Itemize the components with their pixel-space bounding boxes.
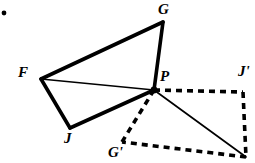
stray-dot [2, 11, 7, 16]
point-marker-P [151, 87, 158, 94]
segment-P-Jprime [154, 90, 243, 92]
geometry-figure: F G J P G' J' [0, 0, 255, 163]
vertex-label-G: G [158, 2, 169, 17]
stray-dot-layer [2, 11, 7, 16]
vertex-label-F: F [18, 65, 28, 80]
vertex-label-P: P [160, 69, 169, 84]
vertex-label-j-prime: J' [238, 64, 250, 79]
segment-F-J [41, 79, 70, 128]
vertex-label-J: J [64, 131, 72, 146]
figure-canvas [0, 0, 255, 163]
segment-F-G [41, 22, 163, 79]
markers-layer [151, 87, 158, 94]
segment-Jprime-Fprime [243, 92, 246, 157]
vertex-label-g-prime: G' [108, 145, 123, 160]
segment-F-P [41, 79, 154, 90]
